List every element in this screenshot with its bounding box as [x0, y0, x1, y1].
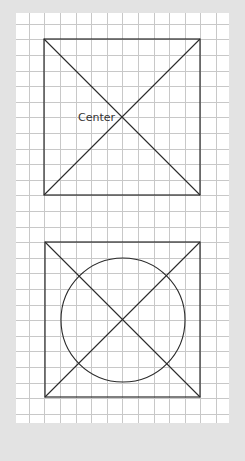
- center-label: Center: [78, 111, 116, 124]
- grid-diagram: Center: [0, 0, 245, 461]
